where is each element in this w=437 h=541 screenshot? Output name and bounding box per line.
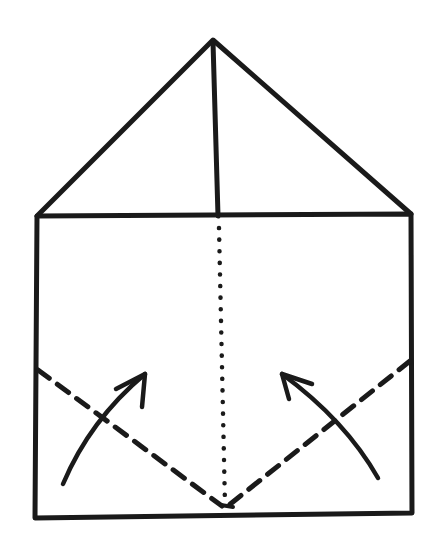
left-fold-arrow-icon bbox=[63, 374, 145, 484]
fold-vertex-mark bbox=[221, 505, 233, 507]
center-dotted-line bbox=[219, 228, 225, 505]
center-crease-solid bbox=[213, 42, 218, 216]
right-valley-fold-line bbox=[229, 361, 410, 505]
triangle-flap bbox=[37, 40, 411, 216]
origami-fold-diagram bbox=[0, 0, 437, 541]
triangle-edges bbox=[37, 40, 411, 216]
